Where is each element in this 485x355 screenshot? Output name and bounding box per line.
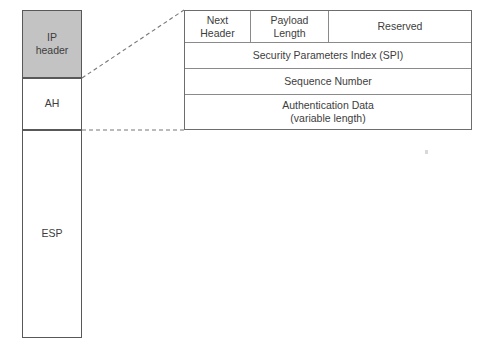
field-reserved: Reserved [329,11,471,42]
authentication-data-line2: (variable length) [290,112,365,124]
ip-header-label-line2: header [36,44,69,56]
field-sequence-number: Sequence Number [185,69,471,94]
authentication-data-line1: Authentication Data [282,99,374,111]
esp-label: ESP [41,227,62,240]
field-security-parameters-index: Security Parameters Index (SPI) [185,43,471,68]
payload-length-label: Payload Length [271,14,309,40]
next-header-label: Next Header [200,14,234,40]
reserved-label: Reserved [378,20,423,33]
ip-header-label: IP header [36,31,69,57]
next-header-line2: Header [200,27,234,39]
payload-length-line2: Length [273,27,305,39]
authentication-data-label: Authentication Data (variable length) [282,99,374,125]
table-row: Next Header Payload Length Reserved [185,11,471,43]
packet-segment-ah: AH [22,78,82,130]
ah-header-detail-table: Next Header Payload Length Reserved Secu… [184,10,472,130]
spi-label: Security Parameters Index (SPI) [253,49,404,62]
payload-length-line1: Payload [271,14,309,26]
ah-label: AH [45,97,60,110]
packet-segment-ip-header: IP header [22,10,82,78]
field-authentication-data: Authentication Data (variable length) [185,95,471,129]
table-row: Authentication Data (variable length) [185,95,471,129]
table-row: Security Parameters Index (SPI) [185,43,471,69]
field-next-header: Next Header [185,11,251,42]
sequence-number-label: Sequence Number [284,75,372,88]
field-payload-length: Payload Length [251,11,329,42]
next-header-line1: Next [207,14,229,26]
packet-segment-esp: ESP [22,130,82,338]
table-row: Sequence Number [185,69,471,95]
scan-artifact [425,150,428,154]
diagonal-leader-line [82,10,184,78]
ipsec-ah-diagram: IP header AH ESP Next Header Payload Len… [0,0,485,355]
ip-header-label-line1: IP [47,31,57,43]
